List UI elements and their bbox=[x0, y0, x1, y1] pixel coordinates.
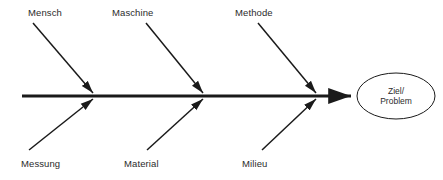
cause-label-milieu: Milieu bbox=[242, 158, 267, 169]
bone-line-top-2 bbox=[146, 23, 203, 93]
effect-label-line-1: Ziel/ bbox=[357, 86, 435, 96]
effect-node-label: Ziel/ Problem bbox=[357, 86, 435, 106]
cause-label-maschine: Maschine bbox=[112, 7, 153, 18]
cause-label-methode: Methode bbox=[235, 7, 273, 18]
cause-label-messung: Messung bbox=[21, 158, 60, 169]
bone-line-bottom-2 bbox=[147, 99, 203, 150]
effect-label-line-2: Problem bbox=[357, 96, 435, 106]
bone-line-bottom-3 bbox=[262, 99, 316, 150]
cause-label-mensch: Mensch bbox=[28, 7, 62, 18]
cause-label-material: Material bbox=[124, 158, 159, 169]
fishbone-diagram-canvas: Mensch Maschine Methode Messung Material… bbox=[0, 0, 443, 180]
bone-line-top-3 bbox=[258, 23, 316, 93]
bone-line-top-1 bbox=[33, 23, 93, 93]
bone-line-bottom-1 bbox=[29, 99, 93, 150]
